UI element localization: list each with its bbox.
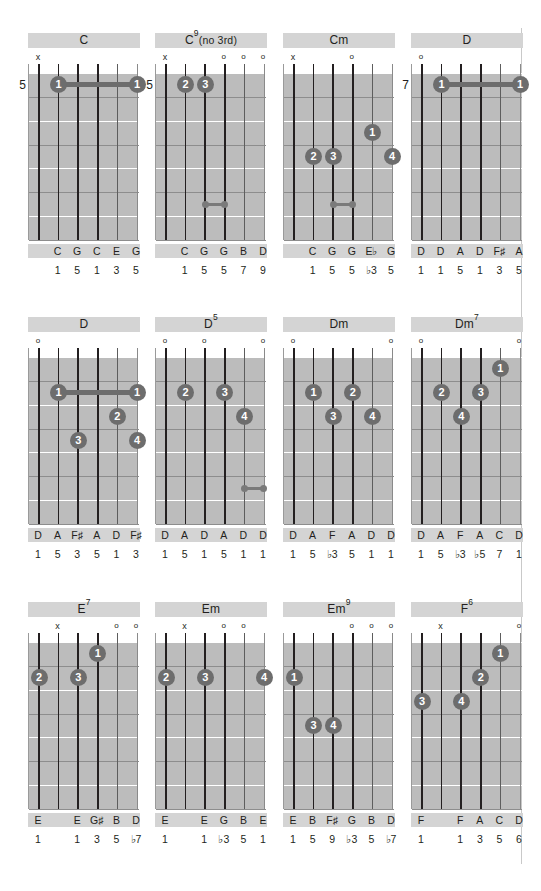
finger-dot[interactable]: 4 [129,432,146,449]
fretboard[interactable]: 1234 [283,348,393,524]
chord-diagram[interactable]: F6xo1234FFACD11356 [411,602,523,846]
finger-dot[interactable]: 2 [472,669,489,686]
finger-dot[interactable]: 3 [197,669,214,686]
finger-dot[interactable]: 1 [492,645,509,662]
note-name: A [508,244,530,258]
string-line [165,64,167,240]
finger-dot[interactable]: 3 [472,384,489,401]
fretboard[interactable]: 1234 [411,633,521,809]
note-name: F♯ [125,528,147,542]
chord-diagram[interactable]: Cmxo2314CGGE♭G155♭35 [283,33,395,277]
fretboard[interactable]: 134 [283,633,393,809]
finger-dot[interactable]: 3 [325,148,342,165]
finger-dot[interactable]: 2 [305,148,322,165]
link-knob [349,201,356,208]
fret-line [284,809,394,810]
finger-dot[interactable]: 1 [364,124,381,141]
finger-dot[interactable]: 2 [158,669,175,686]
finger-dot[interactable]: 2 [109,408,126,425]
fret-line [156,240,266,241]
string-markers-row: o [28,335,140,348]
finger-dot[interactable]: 1 [492,360,509,377]
string-markers-row: xoo [28,620,140,633]
fret-line [156,168,266,169]
chord-diagram[interactable]: Cx115CGCEG15135 [28,33,140,277]
fret-line [284,785,394,786]
finger-dot[interactable]: 3 [197,76,214,93]
chord-diagram[interactable]: Do117DDADF♯A115135 [411,33,523,277]
fret-line [29,97,139,98]
finger-dot[interactable]: 1 [433,76,450,93]
fretboard[interactable]: 11234 [28,348,138,524]
finger-dot[interactable]: 1 [50,76,67,93]
string-markers-row: oo [283,335,395,348]
chord-diagram[interactable]: E7xoo123EEG♯BD1135♭7 [28,602,140,846]
chord-diagram[interactable]: Dmoo1234DAFADD15♭3511 [283,317,395,561]
string-line [372,64,373,240]
fretboard[interactable]: 2314 [283,64,393,240]
fret-line [412,714,522,715]
finger-dot[interactable]: 3 [325,408,342,425]
finger-dot[interactable]: 1 [305,384,322,401]
finger-dot[interactable]: 4 [236,408,253,425]
chord-diagram[interactable]: Dm7oo1234DAFACD15♭3♭571 [411,317,523,561]
note-name: E [27,813,49,827]
fretboard[interactable]: 1234 [411,348,521,524]
fret-line [412,405,522,406]
string-line [77,64,79,240]
finger-dot[interactable]: 2 [177,76,194,93]
finger-dot[interactable]: 4 [325,717,342,734]
fret-line [412,761,522,762]
finger-dot[interactable]: 4 [453,693,470,710]
fretboard[interactable]: 235 [155,64,265,240]
string-line [244,633,245,809]
string-line [293,348,295,524]
finger-dot[interactable]: 4 [256,669,273,686]
fretboard[interactable]: 123 [28,633,138,809]
finger-dot[interactable]: 3 [70,669,87,686]
finger-dot[interactable]: 1 [129,384,146,401]
finger-dot[interactable]: 1 [89,645,106,662]
string-line [392,633,393,809]
note-names-bar: DAFADD [283,528,395,542]
finger-dot[interactable]: 3 [216,384,233,401]
note-name: D [125,813,147,827]
open-string-icon: o [258,51,268,63]
finger-dot[interactable]: 4 [384,148,401,165]
link-knob [260,485,267,492]
scale-degrees-row: 159♭35♭7 [283,832,395,846]
fret-line [412,429,522,430]
string-markers-row: xooo [155,51,267,64]
nut-gap [412,348,520,357]
string-line [97,348,99,524]
finger-dot[interactable]: 4 [364,408,381,425]
chord-diagram[interactable]: D5ooo234DADADD151511 [155,317,267,561]
open-string-icon: o [199,335,209,347]
finger-dot[interactable]: 2 [177,384,194,401]
string-line [264,348,265,524]
chord-diagram[interactable]: Do11234DAF♯ADF♯153513 [28,317,140,561]
finger-dot[interactable]: 3 [305,717,322,734]
finger-dot[interactable]: 1 [286,669,303,686]
finger-dot[interactable]: 3 [414,693,431,710]
fret-line [412,168,522,169]
fret-line [29,73,139,74]
finger-dot[interactable]: 2 [433,384,450,401]
finger-dot[interactable]: 1 [50,384,67,401]
finger-dot[interactable]: 2 [31,669,48,686]
chord-name-label: Em [155,602,267,617]
finger-dot[interactable]: 4 [453,408,470,425]
barre-bar [59,82,137,87]
chord-diagram[interactable]: Emxoo234EEGBE11♭351 [155,602,267,846]
fretboard[interactable]: 234 [155,633,265,809]
finger-dot[interactable]: 3 [70,432,87,449]
fretboard[interactable]: 234 [155,348,265,524]
string-line [500,64,501,240]
barre-bar [442,82,520,87]
chord-diagram[interactable]: C9(no 3rd)xooo235CGGBD15579 [155,33,267,277]
finger-dot[interactable]: 2 [344,384,361,401]
fretboard[interactable]: 117 [411,64,521,240]
finger-dot[interactable]: 1 [512,76,529,93]
fretboard[interactable]: 115 [28,64,138,240]
chord-diagram[interactable]: Em9ooo134EBF♯GBD159♭35♭7 [283,602,395,846]
